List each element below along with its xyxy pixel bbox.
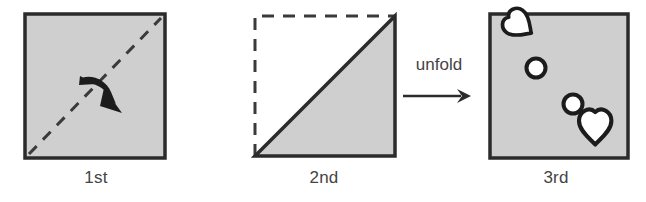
panel-first-fold: 1st (0, 0, 192, 202)
panel-unfolded-result: 3rd (466, 0, 646, 202)
circle-hole-lower (564, 95, 583, 114)
folded-triangle (255, 16, 395, 156)
circle-hole-upper (527, 59, 546, 78)
paper-folding-figure: 1st 2nd unfold (0, 0, 646, 202)
unfolded-result-diagram (466, 0, 646, 168)
panel-caption-first: 1st (0, 168, 192, 188)
panel-second-fold: 2nd (228, 0, 420, 202)
first-fold-diagram (0, 0, 192, 168)
second-fold-diagram (228, 0, 420, 168)
panel-caption-second: 2nd (228, 168, 420, 188)
panel-caption-third: 3rd (466, 168, 646, 188)
